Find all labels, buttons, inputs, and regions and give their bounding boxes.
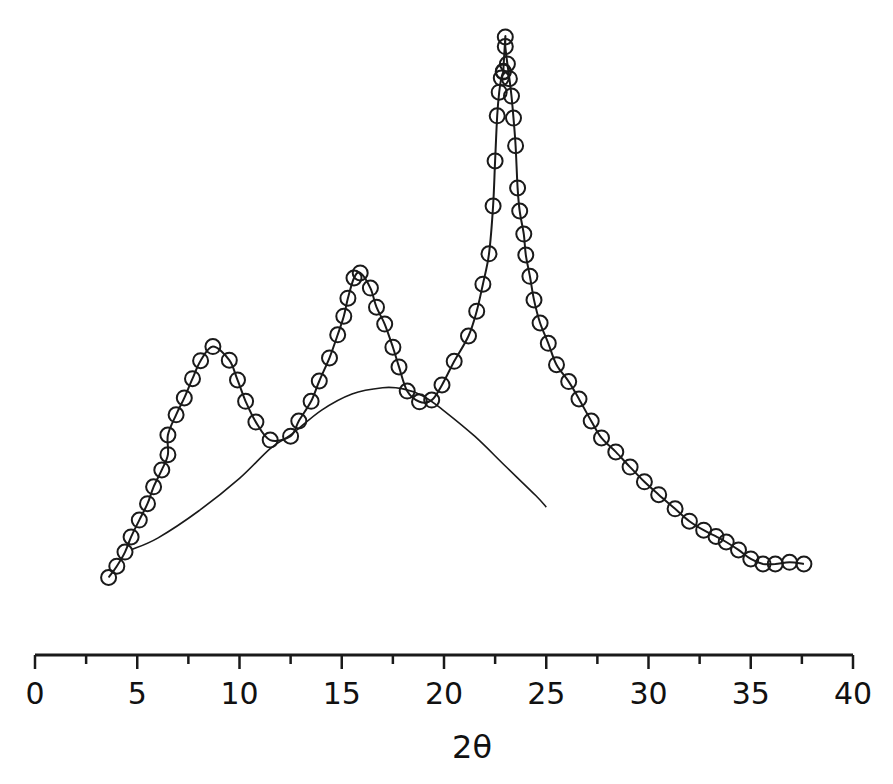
x-tick-label: 15 (323, 676, 361, 711)
x-tick-label: 5 (128, 676, 147, 711)
x-tick-label: 0 (25, 676, 44, 711)
x-tick-label: 40 (834, 676, 872, 711)
xrd-pattern-chart: 0510152025303540 2θ (0, 0, 893, 784)
amorphous-baseline-curve (131, 387, 546, 550)
measured-intensity-line (109, 36, 804, 578)
x-axis: 0510152025303540 2θ (25, 655, 872, 766)
x-tick-label: 10 (220, 676, 258, 711)
x-axis-tick-labels: 0510152025303540 (25, 676, 872, 711)
x-axis-ticks (35, 655, 853, 669)
x-axis-title: 2θ (452, 728, 492, 766)
x-tick-label: 35 (732, 676, 770, 711)
x-tick-label: 25 (527, 676, 565, 711)
data-point-markers (101, 30, 811, 586)
x-tick-label: 20 (425, 676, 463, 711)
plot-area (101, 30, 811, 586)
x-tick-label: 30 (629, 676, 667, 711)
